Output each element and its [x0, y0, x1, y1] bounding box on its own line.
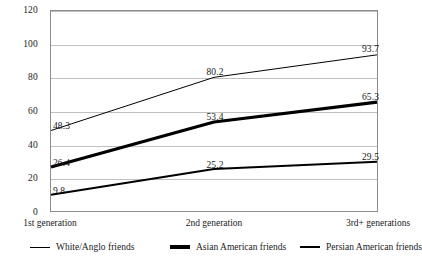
y-axis-tick-label: 40	[28, 140, 38, 150]
x-axis-category-label: 3rd+ generations	[346, 218, 410, 228]
y-axis-tick-label: 80	[28, 72, 38, 82]
legend-label: Persian American friends	[326, 242, 422, 252]
legend-line-icon	[300, 246, 320, 248]
data-point-label: 29.5	[362, 152, 379, 162]
chart-legend: White/Anglo friendsAsian American friend…	[0, 240, 411, 260]
x-axis-category-label: 1st generation	[23, 218, 77, 228]
plot-area: 48.380.293.726.453.465.39.825.229.5	[50, 10, 378, 212]
data-point-label: 25.2	[206, 160, 223, 170]
series-layer	[51, 11, 377, 211]
data-point-label: 65.3	[362, 92, 379, 102]
x-axis-category-label: 2nd generation	[186, 218, 243, 228]
legend-item[interactable]: Asian American friends	[170, 242, 286, 252]
y-axis-tick-label: 20	[28, 173, 38, 183]
data-point-label: 26.4	[53, 158, 70, 168]
legend-item[interactable]: White/Anglo friends	[30, 242, 134, 252]
y-axis-tick-label: 100	[23, 39, 38, 49]
y-axis-tick-labels: 020406080100120	[0, 10, 44, 212]
y-axis-tick-label: 0	[33, 207, 38, 217]
legend-item[interactable]: Persian American friends	[300, 242, 422, 252]
legend-label: Asian American friends	[196, 242, 286, 252]
data-point-label: 48.3	[53, 121, 70, 131]
y-axis-tick-label: 60	[28, 106, 38, 116]
x-axis-category-labels: 1st generation2nd generation3rd+ generat…	[50, 218, 378, 234]
data-point-label: 93.7	[362, 44, 379, 54]
legend-line-icon	[170, 245, 190, 248]
data-point-label: 9.8	[53, 186, 65, 196]
data-point-label: 53.4	[206, 112, 223, 122]
data-point-label: 80.2	[206, 67, 223, 77]
legend-label: White/Anglo friends	[56, 242, 134, 252]
y-axis-tick-label: 120	[23, 5, 38, 15]
legend-line-icon	[30, 247, 50, 248]
